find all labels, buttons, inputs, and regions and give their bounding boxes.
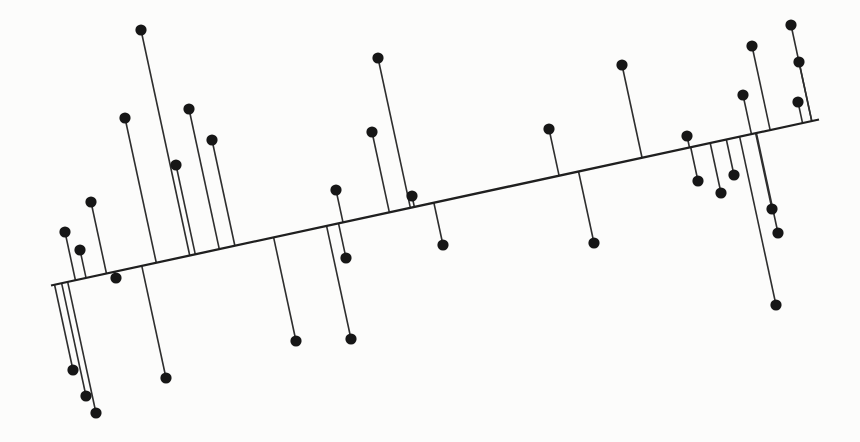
residual-segment [142, 266, 166, 378]
data-point [785, 19, 796, 30]
residual-segment [549, 129, 559, 176]
residual-segments-layer [55, 25, 812, 413]
data-point [737, 89, 748, 100]
data-point [183, 103, 194, 114]
residual-segment [372, 132, 389, 212]
data-point [366, 126, 377, 137]
data-point [372, 52, 383, 63]
data-point [766, 203, 777, 214]
residual-scatter-plot [0, 0, 860, 442]
residual-segment [274, 237, 296, 341]
data-point [119, 112, 130, 123]
data-point [616, 59, 627, 70]
residual-scatter-figure [0, 0, 860, 442]
data-point [746, 40, 757, 51]
residual-segment [752, 46, 770, 130]
data-points-layer [59, 19, 804, 418]
data-point [770, 299, 781, 310]
residual-segment [434, 203, 443, 245]
data-point [792, 96, 803, 107]
residual-segment [579, 171, 594, 243]
data-point [80, 390, 91, 401]
residual-segment [141, 30, 190, 256]
data-point [406, 190, 417, 201]
data-point [206, 134, 217, 145]
data-point [67, 364, 78, 375]
data-point [135, 24, 146, 35]
data-point [543, 123, 554, 134]
data-point [715, 187, 726, 198]
data-point [90, 407, 101, 418]
data-point [728, 169, 739, 180]
residual-segment [176, 165, 195, 254]
data-point [340, 252, 351, 263]
data-point [588, 237, 599, 248]
residual-segment [125, 118, 156, 263]
residual-segment [710, 143, 721, 193]
data-point [170, 159, 181, 170]
data-point [692, 175, 703, 186]
residual-segment [189, 109, 219, 249]
data-point [59, 226, 70, 237]
data-point [345, 333, 356, 344]
residual-segment [91, 202, 106, 274]
residual-segment [65, 232, 75, 280]
residual-segment [622, 65, 642, 158]
residual-segment [327, 226, 351, 339]
data-point [330, 184, 341, 195]
data-point [793, 56, 804, 67]
residual-segment [743, 95, 751, 134]
data-point [772, 227, 783, 238]
residual-segment [740, 137, 776, 305]
data-point [110, 272, 121, 283]
residual-segment [756, 133, 778, 233]
data-point [437, 239, 448, 250]
data-point [74, 244, 85, 255]
data-point [160, 372, 171, 383]
data-point [290, 335, 301, 346]
data-point [85, 196, 96, 207]
data-point [681, 130, 692, 141]
residual-segment [62, 283, 86, 396]
